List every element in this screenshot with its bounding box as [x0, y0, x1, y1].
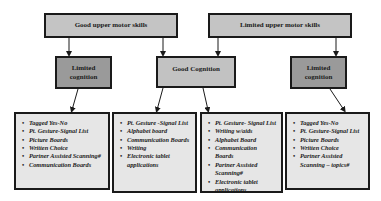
list-item: Partner Assisted Scanning#: [22, 152, 104, 160]
list-item: Alphabet Board: [208, 136, 277, 144]
limited-cognition-left-label: Limited cognition: [63, 64, 104, 82]
good-cognition-label: Good Cognition: [172, 65, 220, 74]
limited-cognition-right-box: Limited cognition: [290, 56, 347, 89]
list-item: Electronic tablet applications: [208, 178, 277, 195]
list-item: Partner Assisted Scanning – topics#: [293, 152, 364, 169]
list-item: Communication Boards: [208, 144, 277, 161]
good-cognition-box: Good Cognition: [156, 56, 236, 88]
list-item: Communication Boards: [120, 136, 191, 144]
list-item: Tagged Yes-No: [293, 119, 364, 127]
list-item: Picture Boards: [293, 136, 364, 144]
list-item: Writing w/aids: [208, 127, 277, 135]
list-item: Partner Assisted Scanning#: [208, 161, 277, 178]
list-item: Written Choice: [293, 144, 364, 152]
aac-list-good-cognition-good-motor: Pt. Gesture -Signal List Alphabet board …: [112, 112, 197, 193]
list-item: Picture Boards: [22, 136, 104, 144]
list-item: Writing: [120, 144, 191, 152]
aac-list-good-cognition-limited-motor: Pt. Gesture- Signal List Writing w/aids …: [200, 112, 283, 193]
list-item: Pt. Gesture-Signal List: [293, 127, 364, 135]
list-item: Pt. Gesture-Signal List: [22, 127, 104, 135]
good-upper-motor-skills-label: Good upper motor skills: [75, 21, 148, 30]
limited-upper-motor-skills-box: Limited upper motor skills: [208, 13, 352, 38]
list-item: Alphabet board: [120, 127, 191, 135]
list-item: Pt. Gesture- Signal List: [208, 119, 277, 127]
list-item: Tagged Yes-No: [22, 119, 104, 127]
limited-cognition-right-label: Limited cognition: [298, 64, 339, 82]
list-item: Pt. Gesture -Signal List: [120, 119, 191, 127]
limited-upper-motor-skills-label: Limited upper motor skills: [240, 21, 320, 30]
list-item: Electronic tablet applications: [120, 152, 191, 169]
limited-cognition-left-box: Limited cognition: [55, 56, 112, 89]
list-item: Communication Boards: [22, 161, 104, 169]
aac-list-limited-cognition-good-motor: Tagged Yes-No Pt. Gesture-Signal List Pi…: [14, 112, 110, 190]
aac-list-limited-cognition-limited-motor: Tagged Yes-No Pt. Gesture-Signal List Pi…: [285, 112, 370, 190]
good-upper-motor-skills-box: Good upper motor skills: [44, 13, 178, 38]
list-item: Written Choice: [22, 144, 104, 152]
